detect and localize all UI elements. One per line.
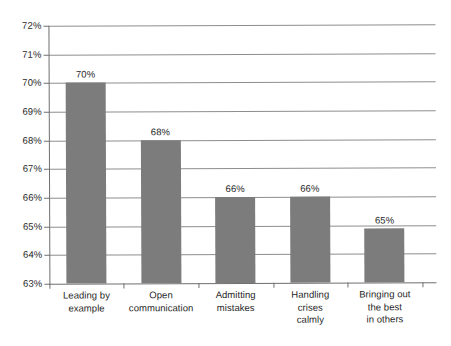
- x-axis-tick: [422, 282, 423, 287]
- bar-value-label: 68%: [130, 126, 190, 137]
- x-axis-category-label: Admittingmistakes: [193, 289, 279, 314]
- y-axis-tick-label: 72%: [7, 20, 41, 31]
- y-axis-tick: [44, 255, 50, 256]
- category-label-line: crises: [267, 301, 353, 314]
- category-label-line: Open: [118, 289, 204, 302]
- category-label-line: in others: [342, 313, 428, 326]
- x-axis-tick: [124, 283, 125, 288]
- plot-area: [49, 24, 436, 283]
- x-axis-category-label: Handlingcrisescalmly: [267, 289, 353, 327]
- y-axis-tick-label: 67%: [8, 163, 42, 174]
- bar-value-label: 70%: [56, 69, 116, 80]
- category-label-line: Leading by: [43, 289, 129, 302]
- y-axis-tick-label: 68%: [8, 134, 42, 145]
- y-axis-tick: [44, 83, 50, 84]
- category-label-line: example: [43, 302, 129, 315]
- bar: [140, 140, 181, 283]
- bar-value-label: 66%: [280, 183, 340, 194]
- y-axis-tick-label: 66%: [8, 192, 42, 203]
- gridline: [50, 139, 436, 141]
- gridline: [50, 53, 436, 55]
- category-label-line: Handling: [267, 289, 353, 302]
- bar: [215, 197, 255, 283]
- x-axis-tick: [273, 283, 274, 288]
- category-label-line: the best: [342, 301, 428, 314]
- x-axis-tick: [49, 284, 50, 289]
- x-axis-tick: [198, 283, 199, 288]
- y-axis-tick: [43, 26, 49, 27]
- y-axis-tick-label: 70%: [8, 77, 42, 88]
- y-axis-tick: [44, 226, 50, 227]
- y-axis-tick: [44, 54, 50, 55]
- x-axis-category-label: Bringing outthe bestin others: [342, 288, 428, 326]
- y-axis-tick-label: 65%: [8, 220, 42, 231]
- y-axis-tick: [44, 112, 50, 113]
- y-axis-tick: [44, 140, 50, 141]
- bar-chart: 72%71%70%69%68%67%66%65%64%63% 70%Leadin…: [0, 0, 451, 346]
- category-label-line: mistakes: [193, 301, 279, 314]
- y-axis-tick-label: 64%: [8, 249, 42, 260]
- cropped-title-remnant: [0, 0, 450, 3]
- x-axis-tick: [348, 283, 349, 288]
- y-axis-tick-label: 63%: [8, 278, 42, 289]
- bar: [66, 83, 107, 284]
- bar-value-label: 66%: [205, 183, 265, 194]
- x-axis-category-label: Opencommunication: [118, 289, 204, 314]
- gridline: [49, 24, 435, 26]
- gridline: [50, 168, 436, 170]
- bar: [290, 197, 330, 283]
- gridline: [50, 110, 436, 112]
- category-label-line: calmly: [267, 314, 353, 327]
- y-axis-tick: [44, 169, 50, 170]
- gridline: [50, 82, 436, 84]
- bar: [365, 228, 405, 283]
- y-axis-tick-label: 71%: [8, 48, 42, 59]
- x-axis-category-label: Leading byexample: [43, 289, 129, 314]
- category-label-line: Admitting: [193, 289, 279, 302]
- category-label-line: communication: [118, 302, 204, 315]
- y-axis-tick-label: 69%: [8, 106, 42, 117]
- category-label-line: Bringing out: [342, 288, 428, 301]
- y-axis-tick: [44, 198, 50, 199]
- bar-value-label: 65%: [355, 214, 415, 225]
